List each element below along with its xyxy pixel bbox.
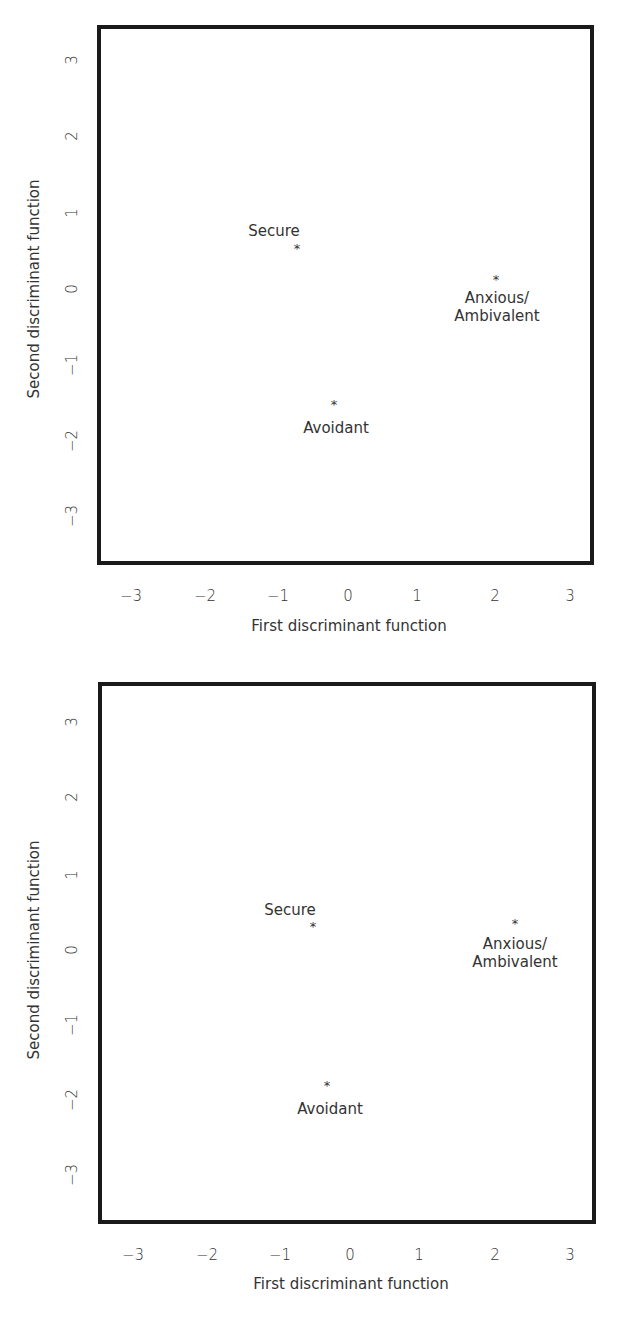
asterisk-marker-secure: * — [310, 920, 317, 933]
y-axis-label: Second discriminant function — [25, 841, 43, 1060]
discriminant-plot-2: 3 2 1 0 −1 −2 −3 Second discriminant fun… — [0, 660, 617, 1321]
x-tick: −3 — [120, 589, 142, 604]
x-axis-label: First discriminant function — [253, 1275, 448, 1293]
x-tick: 2 — [490, 1248, 500, 1263]
asterisk-marker-avoidant: * — [324, 1079, 331, 1092]
x-tick: −2 — [194, 589, 216, 604]
x-axis-label: First discriminant function — [251, 617, 446, 635]
y-tick: 2 — [65, 792, 80, 802]
x-tick: 2 — [490, 589, 500, 604]
y-tick: 1 — [65, 208, 80, 218]
point-label-secure: Secure — [264, 901, 316, 919]
x-tick: 3 — [565, 589, 575, 604]
y-tick: 3 — [65, 717, 80, 727]
y-tick: 3 — [65, 55, 80, 65]
point-label-anxious-line2: Ambivalent — [454, 307, 539, 325]
point-label-anxious-line2: Ambivalent — [472, 953, 557, 971]
x-tick: 0 — [343, 589, 353, 604]
asterisk-marker-anxious: * — [512, 917, 519, 930]
y-tick: −2 — [65, 430, 80, 452]
point-label-anxious: Anxious/ Ambivalent — [472, 935, 557, 971]
x-tick: 3 — [565, 1248, 575, 1263]
x-tick: 1 — [414, 1248, 424, 1263]
x-tick: −3 — [122, 1248, 144, 1263]
x-tick: −1 — [267, 589, 289, 604]
y-axis-label: Second discriminant function — [25, 180, 43, 399]
x-tick: −2 — [196, 1248, 218, 1263]
discriminant-plot-1: 3 2 1 0 −1 −2 −3 Second discriminant fun… — [0, 0, 617, 660]
y-tick: 1 — [65, 870, 80, 880]
point-label-avoidant: Avoidant — [303, 419, 369, 437]
y-tick: −2 — [65, 1089, 80, 1111]
y-tick: 0 — [65, 284, 80, 294]
y-tick: −3 — [65, 505, 80, 527]
point-label-avoidant: Avoidant — [297, 1100, 363, 1118]
x-tick: 0 — [345, 1248, 355, 1263]
asterisk-marker-secure: * — [294, 242, 301, 255]
y-tick: −1 — [65, 1014, 80, 1036]
x-tick: −1 — [269, 1248, 291, 1263]
y-tick: −3 — [65, 1164, 80, 1186]
asterisk-marker-avoidant: * — [331, 398, 338, 411]
point-label-anxious: Anxious/ Ambivalent — [454, 289, 539, 325]
point-label-anxious-line1: Anxious/ — [465, 289, 529, 307]
x-tick: 1 — [412, 589, 422, 604]
y-tick: −1 — [65, 354, 80, 376]
point-label-anxious-line1: Anxious/ — [483, 935, 547, 953]
y-tick: 2 — [65, 131, 80, 141]
y-tick: 0 — [65, 945, 80, 955]
asterisk-marker-anxious: * — [493, 273, 500, 286]
point-label-secure: Secure — [248, 222, 300, 240]
